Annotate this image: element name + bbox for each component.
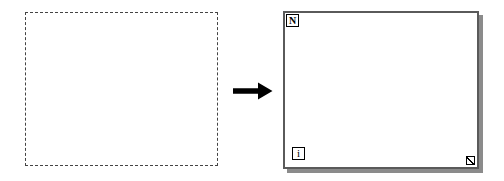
loop-shadow-right bbox=[479, 15, 483, 173]
transformation-arrow-icon bbox=[233, 82, 273, 100]
dashed-selection-rectangle[interactable] bbox=[25, 12, 218, 166]
resize-handle-icon[interactable] bbox=[466, 156, 475, 165]
for-loop-structure[interactable]: N i bbox=[283, 11, 479, 169]
loop-iteration-terminal[interactable]: i bbox=[292, 147, 305, 160]
arrow-right-icon bbox=[233, 82, 273, 100]
loop-shadow-bottom bbox=[287, 169, 483, 173]
loop-interior[interactable] bbox=[287, 15, 475, 165]
diagram-canvas: N i bbox=[0, 0, 504, 181]
loop-count-terminal[interactable]: N bbox=[286, 14, 299, 27]
loop-frame[interactable]: N i bbox=[283, 11, 479, 169]
